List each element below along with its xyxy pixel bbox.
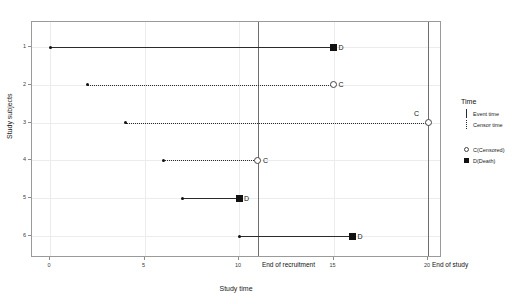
- point-label: D: [339, 44, 344, 51]
- y-tick-mark: [28, 46, 31, 47]
- subject-line-segment: [88, 85, 334, 86]
- legend-item-label: Event time: [473, 111, 499, 117]
- subject-line-segment: [182, 198, 239, 199]
- solid-line-icon: [461, 108, 473, 119]
- x-tick-mark: [333, 257, 334, 260]
- subject-start-dot: [124, 121, 127, 124]
- legend-item-censored: C(Censored): [461, 144, 519, 155]
- reference-line: [258, 22, 259, 256]
- plot-panel: DCCCDD: [31, 21, 441, 257]
- point-label: C: [414, 110, 419, 117]
- y-tick-mark: [28, 84, 31, 85]
- y-tick-label: 6: [18, 232, 26, 238]
- subject-start-dot: [181, 197, 184, 200]
- reference-line: [428, 22, 429, 256]
- legend-item-label: C(Censored): [473, 147, 504, 153]
- point-label: C: [263, 157, 268, 164]
- legend-item-censor-time: Censor time: [461, 119, 519, 130]
- legend-item-event-time: Event time: [461, 108, 519, 119]
- x-tick-label: 5: [142, 262, 145, 268]
- y-tick-label: 2: [18, 81, 26, 87]
- subject-start-dot: [86, 83, 89, 86]
- legend-item-death: D(Death): [461, 155, 519, 166]
- y-axis-title: Study subjects: [6, 93, 13, 139]
- dotted-line-icon: [461, 119, 473, 130]
- censored-marker: [330, 81, 337, 88]
- x-axis-title: Study time: [219, 285, 252, 292]
- y-tick-mark: [28, 122, 31, 123]
- death-marker: [330, 44, 337, 51]
- x-tick-mark: [49, 257, 50, 260]
- x-tick-label: 20: [424, 262, 430, 268]
- censored-marker: [425, 119, 432, 126]
- gridline-vertical: [50, 22, 51, 256]
- survival-swimmer-plot: DCCCDD 05101520 123456 End of recruitmen…: [0, 0, 521, 304]
- x-tick-mark: [238, 257, 239, 260]
- legend-spacer: [461, 130, 519, 144]
- subject-start-dot: [49, 46, 52, 49]
- legend-item-label: D(Death): [473, 158, 495, 164]
- x-tick-label: 15: [329, 262, 335, 268]
- legend-item-label: Censor time: [473, 122, 503, 128]
- subject-line-segment: [50, 47, 334, 48]
- legend: Time Event time Censor time C(Censored): [461, 98, 519, 166]
- gridline-vertical: [334, 22, 335, 256]
- subject-line-segment: [239, 236, 352, 237]
- y-tick-mark: [28, 197, 31, 198]
- subject-start-dot: [238, 235, 241, 238]
- gridline-vertical: [145, 22, 146, 256]
- y-tick-label: 3: [18, 119, 26, 125]
- gridline-vertical: [239, 22, 240, 256]
- y-tick-label: 1: [18, 43, 26, 49]
- x-tick-label: 0: [47, 262, 50, 268]
- reference-line-label: End of recruitment: [262, 261, 315, 268]
- reference-line-label: End of study: [432, 261, 468, 268]
- y-tick-mark: [28, 159, 31, 160]
- legend-title: Time: [461, 98, 519, 105]
- death-marker: [349, 233, 356, 240]
- x-tick-mark: [427, 257, 428, 260]
- gridline-horizontal: [32, 236, 440, 237]
- censored-marker: [254, 157, 261, 164]
- x-tick-mark: [144, 257, 145, 260]
- point-label: C: [339, 81, 344, 88]
- y-tick-mark: [28, 235, 31, 236]
- point-label: D: [357, 233, 362, 240]
- subject-start-dot: [162, 159, 165, 162]
- open-circle-icon: [461, 144, 473, 155]
- subject-line-segment: [163, 160, 258, 161]
- subject-line-segment: [126, 123, 428, 124]
- x-tick-label: 10: [235, 262, 241, 268]
- filled-square-icon: [461, 155, 473, 166]
- y-tick-label: 4: [18, 156, 26, 162]
- point-label: D: [244, 195, 249, 202]
- death-marker: [236, 195, 243, 202]
- y-tick-label: 5: [18, 194, 26, 200]
